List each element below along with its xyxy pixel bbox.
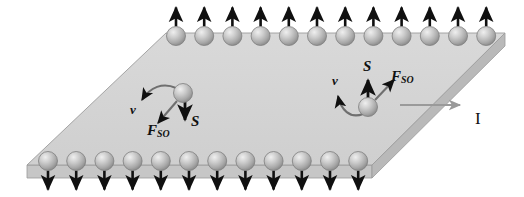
right-spin-label: S bbox=[363, 59, 371, 74]
right-force-subscript: SO bbox=[401, 74, 414, 85]
edge-sphere bbox=[151, 152, 170, 171]
edge-sphere bbox=[292, 152, 311, 171]
edge-sphere bbox=[279, 27, 298, 46]
figure-root: v S FSO v S FSO I bbox=[0, 0, 524, 197]
edge-sphere bbox=[420, 27, 439, 46]
edge-sphere bbox=[123, 152, 142, 171]
edge-sphere bbox=[251, 27, 270, 46]
left-spin-label: S bbox=[191, 114, 199, 129]
edge-sphere bbox=[223, 27, 242, 46]
slab-top-face bbox=[27, 33, 505, 165]
edge-sphere bbox=[39, 152, 58, 171]
edge-sphere bbox=[195, 27, 214, 46]
right-carrier-sphere bbox=[359, 98, 378, 117]
right-force-label: FSO bbox=[391, 69, 414, 85]
edge-sphere bbox=[364, 27, 383, 46]
edge-sphere bbox=[308, 27, 327, 46]
left-carrier-sphere bbox=[174, 84, 193, 103]
edge-sphere bbox=[67, 152, 86, 171]
right-force-symbol: F bbox=[391, 68, 401, 84]
left-velocity-label: v bbox=[130, 103, 136, 116]
edge-sphere bbox=[180, 152, 199, 171]
edge-sphere bbox=[167, 27, 186, 46]
edge-sphere bbox=[321, 152, 340, 171]
diagram-canvas bbox=[0, 0, 524, 197]
current-label: I bbox=[475, 110, 481, 127]
edge-sphere bbox=[477, 27, 496, 46]
edge-sphere bbox=[336, 27, 355, 46]
left-force-label: FSO bbox=[147, 123, 170, 139]
right-velocity-label: v bbox=[332, 74, 338, 87]
left-force-subscript: SO bbox=[157, 128, 170, 139]
edge-sphere bbox=[95, 152, 114, 171]
edge-sphere bbox=[392, 27, 411, 46]
edge-sphere bbox=[449, 27, 468, 46]
left-force-symbol: F bbox=[147, 122, 157, 138]
edge-sphere bbox=[264, 152, 283, 171]
edge-sphere bbox=[349, 152, 368, 171]
edge-sphere bbox=[208, 152, 227, 171]
edge-sphere bbox=[236, 152, 255, 171]
